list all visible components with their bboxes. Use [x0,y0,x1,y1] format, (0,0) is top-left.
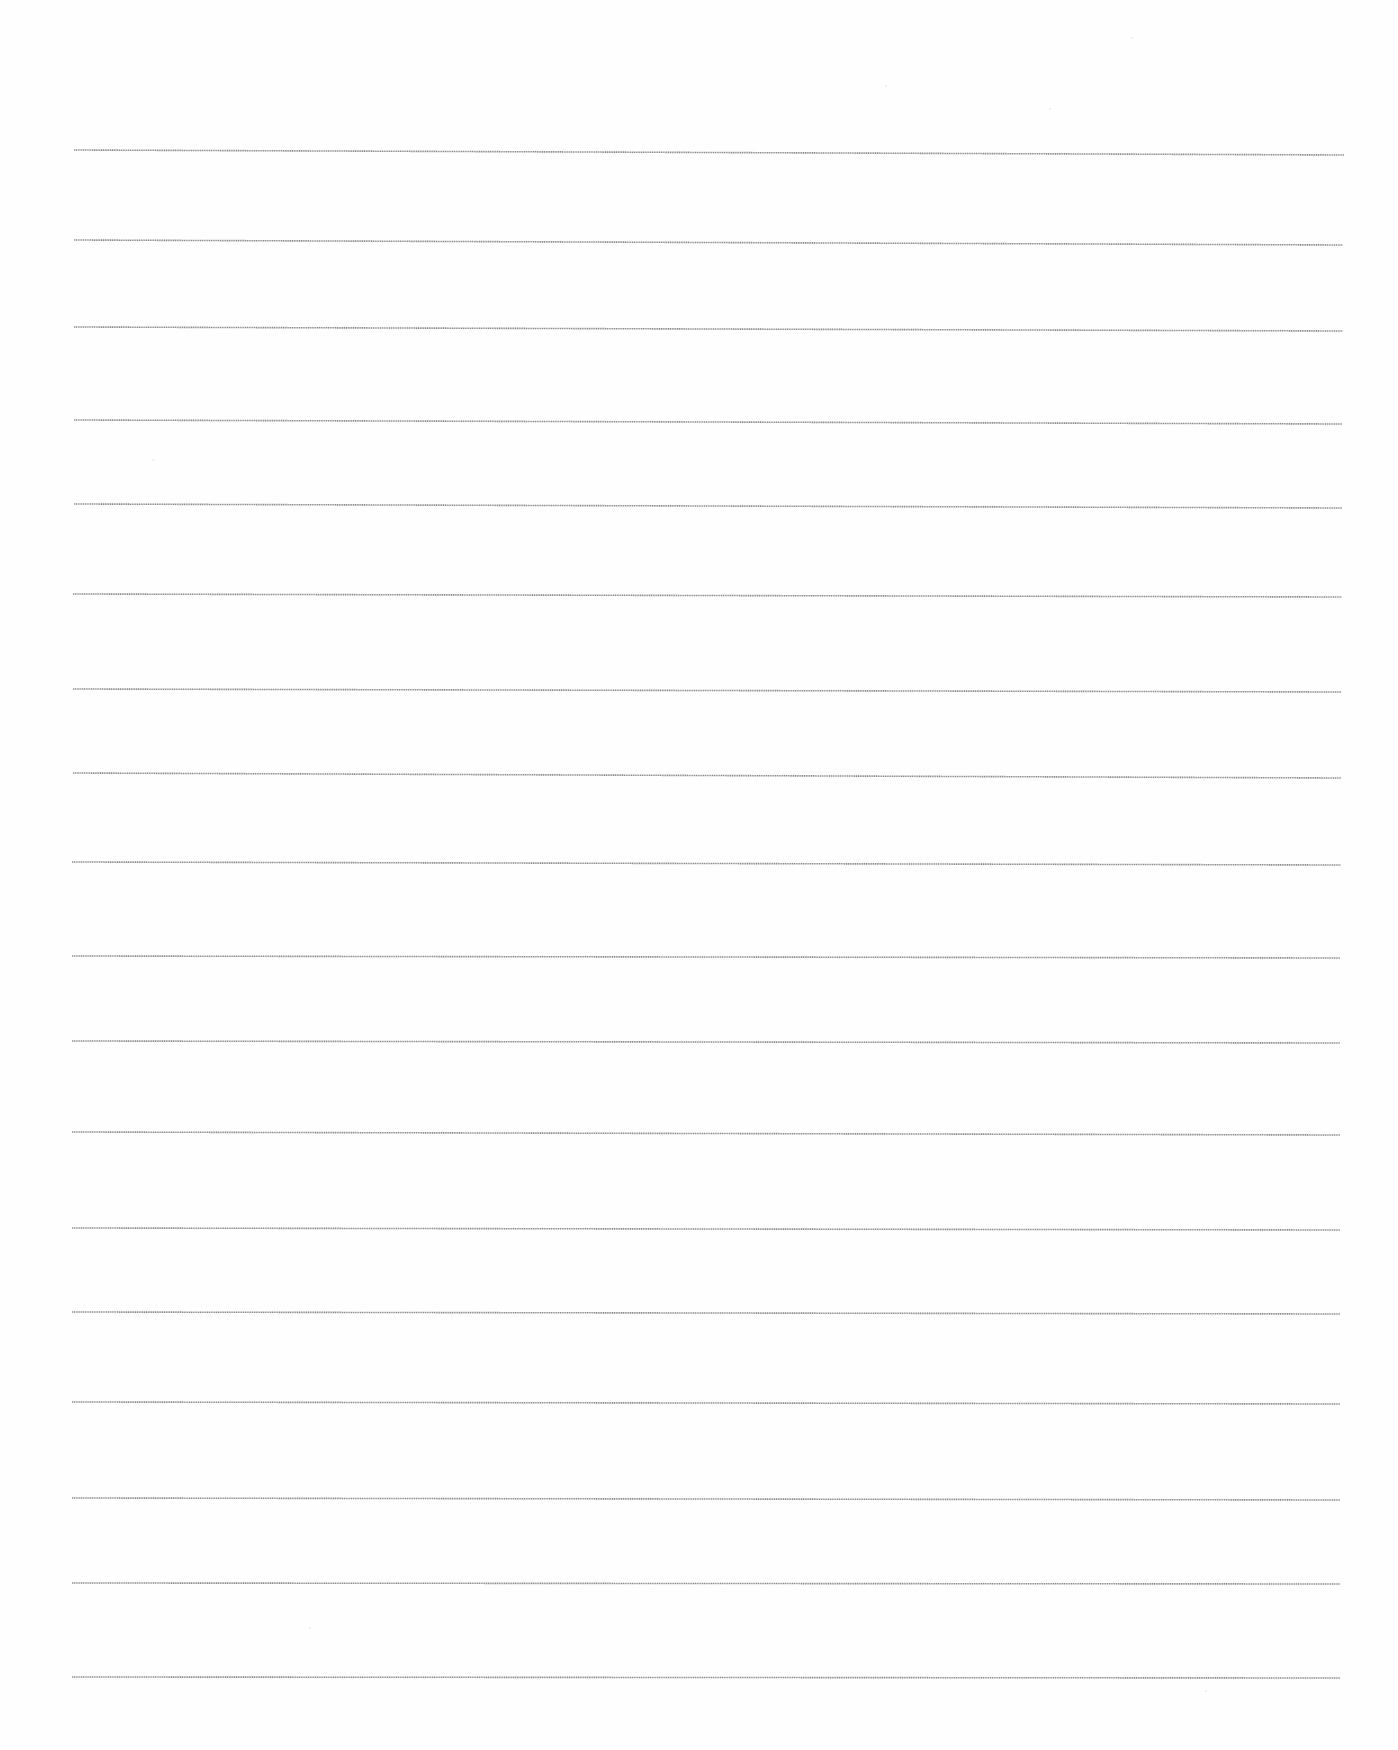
scan-speck [1205,1690,1207,1692]
scan-speck [1049,108,1051,110]
ruled-paper-page [0,0,1398,1750]
scan-speck [309,1627,311,1629]
ruled-lines [0,0,1398,1750]
ruled-line-2 [74,240,1343,245]
ruled-line-10 [72,956,1340,958]
ruled-line-15 [72,1402,1340,1404]
ruled-line-4 [74,420,1342,424]
ruled-line-8 [73,773,1341,778]
ruled-line-14 [72,1312,1340,1314]
ruled-line-6 [73,594,1342,597]
ruled-line-16 [72,1498,1340,1500]
ruled-line-7 [73,689,1341,692]
ruled-line-11 [72,1041,1340,1043]
ruled-line-13 [72,1228,1340,1230]
ruled-line-12 [72,1132,1340,1135]
ruled-line-1 [74,150,1344,155]
scan-speck [1131,37,1133,39]
ruled-line-18 [72,1677,1340,1678]
ruled-line-5 [74,504,1342,508]
ruled-line-3 [74,327,1343,331]
ruled-line-17 [72,1583,1340,1584]
scan-speck [885,85,887,87]
scan-speck [152,459,154,461]
ruled-line-9 [72,862,1341,865]
